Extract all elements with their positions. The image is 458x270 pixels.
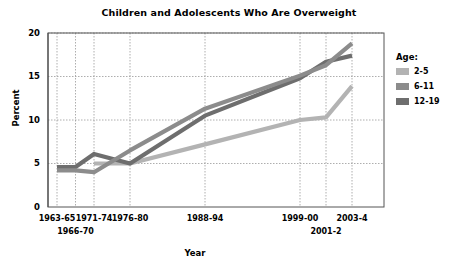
legend-item-label: 2-5 [414,67,428,76]
legend-swatch-icon [396,83,409,90]
legend-items: 2-56-1112-19 [396,67,458,106]
legend-swatch-icon [396,98,409,105]
legend-item-label: 12-19 [414,97,440,106]
plot-area [0,0,458,270]
series-line-2-5 [94,86,352,163]
legend-item[interactable]: 12-19 [396,97,458,106]
chart-container: Children and Adolescents Who Are Overwei… [0,0,458,270]
legend-item[interactable]: 2-5 [396,67,458,76]
legend-item-label: 6-11 [414,82,434,91]
series-line-6-11 [57,43,352,172]
legend: Age: 2-56-1112-19 [396,52,458,112]
legend-title: Age: [396,52,458,62]
legend-swatch-icon [396,68,409,75]
legend-item[interactable]: 6-11 [396,82,458,91]
